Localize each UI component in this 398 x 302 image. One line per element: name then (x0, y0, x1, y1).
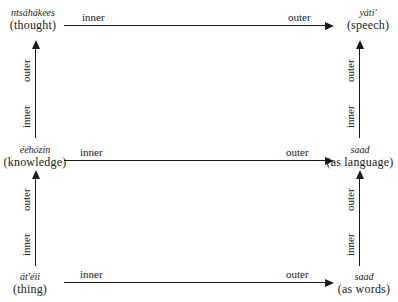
arrow-label-outer: outer (288, 12, 311, 23)
arrow-label-inner: inner (80, 269, 103, 280)
node-as-words: saad (as words) (330, 270, 398, 296)
arrow-label-inner: inner (82, 12, 105, 23)
arrow-thing-to-knowledge (35, 172, 36, 266)
node-thought: ntsáhákees (thought) (2, 6, 64, 32)
arrow-label-inner: inner (345, 233, 356, 256)
node-knowledge: ééhózin (knowledge) (0, 143, 70, 169)
arrow-knowledge-to-language (64, 160, 332, 161)
arrow-label-inner: inner (21, 105, 32, 128)
arrow-label-inner: inner (21, 233, 32, 256)
arrow-thing-to-words (64, 282, 332, 283)
english-gloss: (thing) (5, 283, 55, 296)
arrowhead-right-icon (325, 279, 334, 287)
node-speech: yáti' (speech) (338, 6, 398, 32)
arrowhead-up-icon (356, 170, 364, 179)
arrowhead-right-icon (325, 157, 334, 165)
arrowhead-right-icon (325, 22, 334, 30)
arrowhead-up-icon (32, 40, 40, 49)
arrow-label-inner: inner (345, 105, 356, 128)
arrow-label-outer: outer (21, 59, 32, 82)
english-gloss: (thought) (2, 19, 64, 32)
arrow-label-outer: outer (21, 188, 32, 211)
english-gloss: (as words) (330, 283, 398, 296)
arrow-label-inner: inner (80, 147, 103, 158)
arrow-label-outer: outer (286, 147, 309, 158)
arrow-label-outer: outer (286, 269, 309, 280)
english-gloss: (speech) (338, 19, 398, 32)
arrowhead-up-icon (356, 40, 364, 49)
arrow-label-outer: outer (345, 59, 356, 82)
arrow-words-to-language (359, 172, 360, 266)
arrowhead-up-icon (32, 170, 40, 179)
node-thing: át'éii (thing) (5, 270, 55, 296)
arrow-label-outer: outer (345, 188, 356, 211)
arrow-knowledge-to-thought (35, 42, 36, 138)
english-gloss: (knowledge) (0, 156, 70, 169)
arrow-language-to-speech (359, 42, 360, 138)
arrow-thought-to-speech (64, 25, 332, 26)
